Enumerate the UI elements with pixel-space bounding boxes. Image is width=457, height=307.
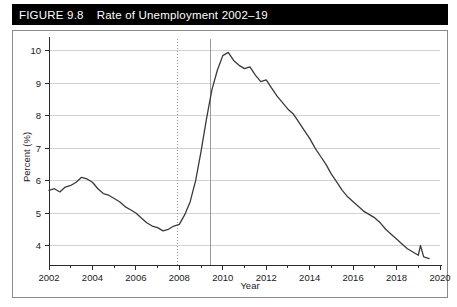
x-tick-label-2006: 2006: [125, 272, 146, 283]
y-tick-label-6: 6: [36, 175, 41, 186]
chart-svg: 45678910 2002200420062008201020122014201…: [0, 0, 457, 307]
x-tick-label-2014: 2014: [299, 272, 320, 283]
x-tick-label-2008: 2008: [169, 272, 190, 283]
y-tick-label-5: 5: [36, 208, 41, 219]
y-tick-label-8: 8: [36, 110, 41, 121]
unemployment-line-chart: 45678910 2002200420062008201020122014201…: [0, 0, 457, 307]
y-axis-ticks: 45678910: [30, 45, 49, 251]
y-axis-title: Percent (%): [21, 132, 32, 182]
x-tick-label-2004: 2004: [82, 272, 103, 283]
x-tick-label-2016: 2016: [343, 272, 364, 283]
y-tick-label-7: 7: [36, 143, 41, 154]
x-axis-title: Year: [240, 280, 259, 291]
y-tick-label-10: 10: [30, 45, 41, 56]
x-tick-label-2010: 2010: [212, 272, 233, 283]
recession-markers: [178, 39, 211, 265]
chart-axes: [49, 37, 442, 265]
y-tick-label-4: 4: [36, 240, 41, 251]
axis-lines: [49, 37, 442, 265]
x-tick-label-2018: 2018: [386, 272, 407, 283]
x-tick-label-2020: 2020: [429, 272, 450, 283]
y-tick-label-9: 9: [36, 78, 41, 89]
gridlines: [49, 51, 440, 246]
x-tick-label-2002: 2002: [38, 272, 59, 283]
